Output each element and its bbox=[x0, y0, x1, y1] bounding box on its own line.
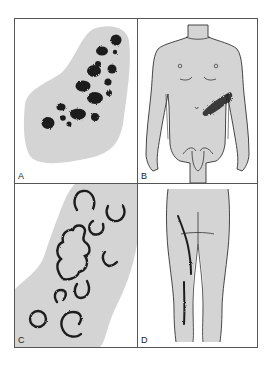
panel-d: D bbox=[138, 184, 258, 347]
panel-label-d: D bbox=[141, 336, 148, 345]
figure-grid: A B bbox=[14, 18, 258, 348]
panel-label-a: A bbox=[18, 172, 24, 181]
torso-front-illustration bbox=[138, 19, 258, 183]
panel-b: B bbox=[138, 19, 258, 184]
panel-a: A bbox=[15, 19, 138, 184]
panel-c: C bbox=[15, 184, 138, 347]
panel-label-b: B bbox=[141, 172, 147, 181]
legs-posterior-illustration bbox=[138, 184, 258, 347]
clustered-lesions-illustration bbox=[15, 19, 137, 183]
annular-lesions-illustration bbox=[15, 184, 137, 347]
panel-label-c: C bbox=[18, 336, 25, 345]
